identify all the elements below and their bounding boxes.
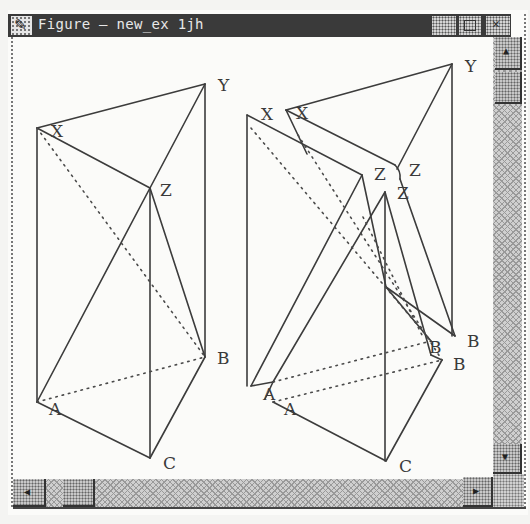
- vertex-label-a1: A: [262, 384, 276, 404]
- window-border-right[interactable]: [524, 14, 526, 509]
- window-border-bottom: [13, 507, 526, 509]
- vertex-label-b1: B: [467, 331, 480, 351]
- minimize-button[interactable]: [432, 16, 456, 35]
- vertex-label-a: A: [48, 399, 62, 419]
- vertex-label-y: Y: [217, 75, 230, 95]
- vertex-label-y: Y: [464, 56, 477, 76]
- scroll-up-button[interactable]: ▲: [495, 37, 522, 70]
- vertex-label-b: B: [217, 348, 230, 368]
- vertex-label-c: C: [399, 456, 412, 476]
- arrow-down-icon: ▼: [502, 451, 508, 462]
- vertex-label-z2: Z: [409, 160, 421, 180]
- right-prism-labels: X X Y Z Z Z A A B B B C: [261, 56, 480, 476]
- vertical-scroll-thumb[interactable]: [495, 72, 522, 104]
- arrow-left-icon: ◀: [24, 486, 30, 497]
- window-menu-button[interactable]: ✎: [11, 16, 32, 35]
- vertex-label-z3: Z: [397, 183, 409, 203]
- vertex-label-c: C: [163, 453, 176, 473]
- horizontal-scroll-thumb[interactable]: [63, 479, 95, 507]
- resize-grip[interactable]: [493, 474, 524, 507]
- right-prism-edges: [247, 64, 455, 461]
- pencil-check-icon: ✎: [14, 16, 27, 34]
- vertex-label-z: Z: [160, 180, 172, 200]
- vertex-label-x: X: [51, 121, 64, 141]
- vertex-label-x2: X: [296, 103, 309, 123]
- vertex-label-b2: B: [429, 337, 442, 357]
- arrow-up-icon: ▲: [503, 45, 509, 56]
- scroll-left-button[interactable]: ◀: [13, 479, 46, 507]
- vertex-label-a2: A: [283, 399, 297, 419]
- maximize-button[interactable]: [459, 16, 481, 35]
- vertex-label-z1: Z: [374, 164, 386, 184]
- left-prism-labels: X Y Z A B C: [48, 75, 230, 473]
- scroll-down-button[interactable]: ▼: [493, 444, 522, 474]
- figure-canvas: X Y Z A B C X X Y Z Z Z A A B B B C: [13, 37, 491, 477]
- scroll-right-button[interactable]: ▶: [463, 477, 493, 507]
- close-icon: ✕: [492, 16, 500, 31]
- arrow-right-icon: ▶: [473, 485, 479, 496]
- vertex-label-b3: B: [453, 354, 466, 374]
- left-prism-hidden-edges: [37, 128, 205, 402]
- close-button[interactable]: ✕: [486, 16, 510, 35]
- vertex-label-x1: X: [261, 104, 274, 124]
- window-title: Figure — new_ex 1jh: [38, 16, 204, 32]
